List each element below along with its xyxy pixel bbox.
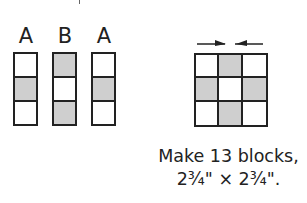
block-cell-white — [243, 102, 266, 125]
strip-label-b: B — [53, 25, 77, 47]
block-cell-shaded — [219, 102, 242, 125]
arrowhead-left — [236, 40, 247, 46]
strip-cell-shaded — [54, 102, 75, 124]
caption-line-1: Make 13 blocks, — [150, 145, 307, 168]
nine-patch-block — [194, 53, 268, 127]
strip-b — [52, 52, 77, 126]
block-cell-shaded — [243, 78, 266, 101]
arrowhead-right — [215, 40, 226, 46]
caption: Make 13 blocks, 2¾" × 2¾". — [150, 145, 307, 191]
strip-cell-white — [15, 54, 36, 78]
strip-label-a2: A — [92, 25, 116, 47]
block-cell-shaded — [219, 55, 242, 78]
strip-cell-white — [15, 102, 36, 124]
strip-a1 — [13, 52, 38, 126]
strip-cell-shaded — [15, 78, 36, 102]
strip-cell-white — [54, 78, 75, 102]
caption-line-2: 2¾" × 2¾". — [150, 168, 307, 191]
strip-cell-shaded — [54, 54, 75, 78]
block-cell-white — [219, 78, 242, 101]
pressing-arrows-icon — [195, 38, 267, 50]
strip-a2 — [91, 52, 116, 126]
strip-cell-shaded — [93, 78, 114, 102]
block-cell-white — [196, 55, 219, 78]
block-cell-white — [196, 102, 219, 125]
block-cell-white — [243, 55, 266, 78]
block-cell-shaded — [196, 78, 219, 101]
strip-cell-white — [93, 54, 114, 78]
strip-label-a1: A — [14, 25, 38, 47]
crop-mark — [79, 0, 80, 4]
strip-cell-white — [93, 102, 114, 124]
